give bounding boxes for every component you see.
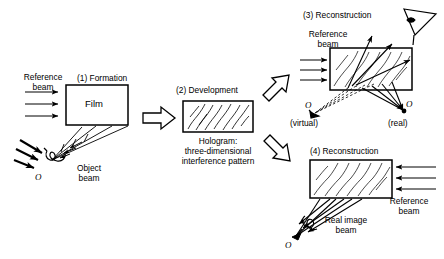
object-beam-rays [52, 126, 128, 160]
hologram-caption: Hologram: three-dimensional interference… [158, 136, 278, 166]
block-arrow-right-icon [143, 107, 175, 129]
reference-beam-rays-3 [300, 60, 327, 80]
panel-formation [14, 85, 128, 168]
illumination-arrows [14, 140, 42, 168]
panel-4-heading: (4) Reconstruction [310, 146, 378, 156]
hologram-plate-2 [183, 101, 253, 132]
real-object-point-4 [292, 233, 301, 240]
reference-beam-label-1: Reference beam [12, 72, 74, 92]
real-object-symbol: O [406, 99, 413, 109]
hologram-plate-3 [330, 48, 412, 90]
film-label: Film [85, 99, 103, 109]
panel-3-heading: (3) Reconstruction [303, 10, 371, 20]
panel-reconstruction-virtual [300, 9, 436, 118]
virtual-note-label: (virtual) [290, 118, 318, 128]
hologram-diagram: Reference beam (1) Formation Film O Obje… [0, 0, 444, 259]
object-beam-label: Object beam [66, 163, 112, 183]
panel-2-heading: (2) Development [176, 85, 238, 95]
real-image-beam-label: Real image beam [313, 215, 379, 235]
object-symbol-label-1: O [35, 172, 42, 182]
panel-1-heading: (1) Formation [77, 73, 127, 83]
real-note-label: (real) [388, 118, 408, 128]
panel-development [183, 101, 253, 132]
reference-beam-label-3: Reference beam [297, 29, 359, 49]
reference-beam-rays-4 [396, 167, 436, 189]
reference-beam-rays-1 [25, 92, 58, 116]
real-object-point [402, 109, 407, 114]
reference-beam-label-4: Reference beam [378, 196, 440, 216]
object-symbol-label-4: O [285, 240, 292, 250]
eye-icon [404, 9, 436, 45]
hologram-plate-4 [310, 160, 392, 198]
block-arrow-up-right-icon [263, 75, 289, 101]
virtual-object-symbol: O [305, 100, 312, 110]
